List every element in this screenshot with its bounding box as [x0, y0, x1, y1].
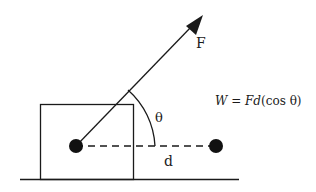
equation-equals: =: [227, 94, 245, 108]
start-point: [69, 139, 83, 153]
work-equation: W = Fd(cos θ): [215, 94, 302, 108]
equation-cos: (cos θ): [261, 94, 302, 108]
equation-fd: Fd: [244, 94, 261, 108]
angle-label: θ: [155, 110, 163, 125]
distance-label: d: [164, 153, 173, 169]
force-arrowhead-icon: [186, 15, 203, 35]
angle-arc: [128, 90, 155, 146]
box: [41, 105, 134, 180]
end-point: [209, 139, 223, 153]
work-diagram: F θ d W = Fd(cos θ): [0, 0, 316, 192]
force-label: F: [196, 35, 206, 51]
